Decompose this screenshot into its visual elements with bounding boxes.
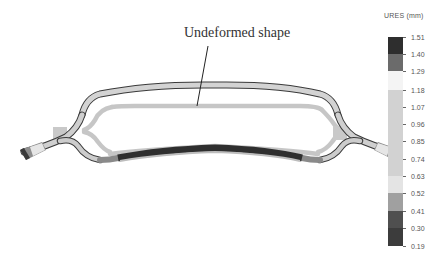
legend-band-6: [388, 193, 403, 211]
tick-mark: [403, 141, 406, 142]
tick-mark: [403, 124, 406, 125]
tick-label: 1.29: [411, 68, 425, 75]
tick-mark: [403, 90, 406, 91]
tick-label: 1.51: [411, 34, 425, 41]
tick-label: 1.40: [411, 51, 425, 58]
tick-mark: [403, 176, 406, 177]
tick-label: 0.52: [411, 190, 425, 197]
tick-label: 0.41: [411, 208, 425, 215]
legend-band-7: [388, 211, 403, 228]
tick-label: 1.07: [411, 104, 425, 111]
tick-label: 0.85: [411, 138, 425, 145]
legend-band-1: [388, 37, 403, 54]
legend-band-2: [388, 54, 403, 71]
tick-mark: [403, 159, 406, 160]
tick-mark: [403, 71, 406, 72]
tick-mark: [403, 228, 406, 229]
legend-band-8: [388, 228, 403, 246]
tick-mark: [403, 37, 406, 38]
tick-label: 0.19: [411, 243, 425, 250]
annotation-leader-line: [197, 46, 208, 106]
tick-label: 1.18: [411, 87, 425, 94]
fea-displacement-plot: Undeformed shape URES (mm) 1.51 1.40 1.2…: [0, 0, 446, 265]
tick-mark: [403, 211, 406, 212]
tick-label: 0.63: [411, 173, 425, 180]
tick-mark: [403, 246, 406, 247]
deformed-shape: [20, 85, 400, 161]
tick-label: 0.30: [411, 225, 425, 232]
tick-label: 0.96: [411, 121, 425, 128]
legend-band-3: [388, 71, 403, 90]
legend-band-4: [388, 90, 403, 176]
undeformed-shape-label: Undeformed shape: [184, 25, 290, 41]
legend-band-5: [388, 176, 403, 193]
tick-mark: [403, 193, 406, 194]
tick-mark: [403, 54, 406, 55]
tick-label: 0.74: [411, 156, 425, 163]
tick-mark: [403, 107, 406, 108]
legend-title: URES (mm): [384, 12, 424, 19]
